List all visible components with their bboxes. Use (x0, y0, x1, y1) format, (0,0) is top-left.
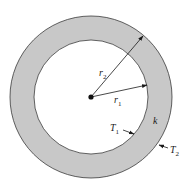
k-label: k (153, 115, 158, 126)
annulus-diagram: r2 r1 k T1 T2 (0, 0, 193, 186)
center-dot (88, 94, 93, 99)
t2-label: T2 (170, 144, 180, 158)
t2-arrow (159, 145, 168, 148)
